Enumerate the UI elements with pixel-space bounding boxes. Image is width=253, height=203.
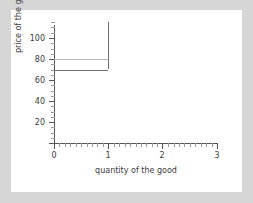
y-minor-tick <box>51 43 55 44</box>
y-tick-label-80: 80 <box>25 56 45 64</box>
y-minor-tick <box>51 112 55 113</box>
x-minor-tick <box>103 143 104 147</box>
y-minor-tick <box>51 106 55 107</box>
x-minor-tick <box>195 143 196 147</box>
y-axis-title: price of the good <box>14 0 23 53</box>
y-minor-tick <box>51 96 55 97</box>
x-minor-tick <box>87 143 88 147</box>
figure-container: 20 40 60 80 100 0 1 2 3 quantity of the … <box>0 0 253 203</box>
y-minor-tick <box>51 49 55 50</box>
x-minor-tick <box>97 143 98 147</box>
y-minor-tick <box>51 75 55 76</box>
x-minor-tick <box>146 143 147 147</box>
series-supply-segment <box>108 22 109 69</box>
x-minor-tick <box>179 143 180 147</box>
x-axis-title: quantity of the good <box>54 166 218 175</box>
chart-plot-area: 20 40 60 80 100 0 1 2 3 quantity of the … <box>0 0 253 203</box>
y-tick-40 <box>49 101 55 102</box>
series-demand-segment <box>54 59 108 60</box>
x-minor-tick <box>114 143 115 147</box>
x-minor-tick <box>184 143 185 147</box>
x-minor-tick <box>141 143 142 147</box>
x-minor-tick <box>119 143 120 147</box>
y-tick-label-20: 20 <box>25 119 45 127</box>
y-minor-tick <box>51 64 55 65</box>
x-tick-0 <box>54 143 55 149</box>
y-minor-tick <box>51 33 55 34</box>
y-tick-label-60: 60 <box>25 77 45 85</box>
y-minor-tick <box>51 127 55 128</box>
x-minor-tick <box>212 143 213 147</box>
x-minor-tick <box>201 143 202 147</box>
y-minor-tick <box>51 54 55 55</box>
y-minor-tick <box>51 85 55 86</box>
x-minor-tick <box>70 143 71 147</box>
x-minor-tick <box>130 143 131 147</box>
x-minor-tick <box>206 143 207 147</box>
x-tick-label-1: 1 <box>98 152 118 160</box>
x-minor-tick <box>59 143 60 147</box>
x-minor-tick <box>81 143 82 147</box>
x-tick-label-0: 0 <box>44 152 64 160</box>
x-tick-label-2: 2 <box>152 152 172 160</box>
x-minor-tick <box>136 143 137 147</box>
x-tick-label-3: 3 <box>207 152 227 160</box>
y-minor-tick <box>51 138 55 139</box>
y-tick-20 <box>49 122 55 123</box>
x-minor-tick <box>152 143 153 147</box>
x-minor-tick <box>76 143 77 147</box>
y-minor-tick <box>51 22 55 23</box>
x-minor-tick <box>157 143 158 147</box>
y-minor-tick <box>51 133 55 134</box>
y-tick-60 <box>49 80 55 81</box>
x-minor-tick <box>92 143 93 147</box>
x-minor-tick <box>65 143 66 147</box>
x-minor-tick <box>174 143 175 147</box>
y-tick-100 <box>49 38 55 39</box>
x-tick-1 <box>108 143 109 149</box>
x-tick-2 <box>162 143 163 149</box>
y-tick-label-40: 40 <box>25 98 45 106</box>
y-tick-label-100: 100 <box>20 35 45 43</box>
y-minor-tick <box>51 91 55 92</box>
x-tick-3 <box>217 143 218 149</box>
x-minor-tick <box>190 143 191 147</box>
series-supply-segment <box>54 70 108 71</box>
y-minor-tick <box>51 27 55 28</box>
x-minor-tick <box>168 143 169 147</box>
y-minor-tick <box>51 117 55 118</box>
x-minor-tick <box>125 143 126 147</box>
